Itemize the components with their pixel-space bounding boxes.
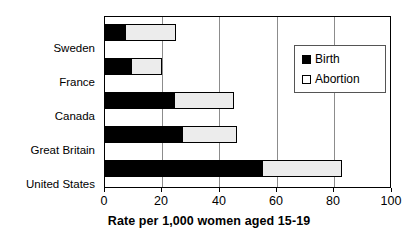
x-tick-mark-100	[391, 188, 392, 192]
bar-segment-birth-france	[105, 58, 131, 75]
bar-segment-abortion-sweden	[125, 24, 176, 41]
y-axis-category-labels: Sweden France Canada Great Britain Unite…	[0, 16, 100, 188]
bar-segment-birth-great-britain	[105, 126, 182, 143]
legend-item-birth: Birth	[302, 49, 385, 69]
legend-item-abortion: Abortion	[302, 69, 385, 89]
x-tick-mark-80	[333, 188, 334, 192]
x-tick-label-0: 0	[84, 194, 124, 208]
bar-segment-birth-united-states	[105, 160, 262, 177]
bar-segment-abortion-france	[131, 58, 162, 75]
y-axis-label-great-britain: Great Britain	[0, 144, 95, 156]
x-tick-mark-20	[161, 188, 162, 192]
x-tick-label-20: 20	[141, 194, 181, 208]
x-tick-label-40: 40	[199, 194, 239, 208]
bar-segment-birth-sweden	[105, 24, 125, 41]
legend-label-abortion: Abortion	[315, 72, 360, 86]
bar-segment-birth-canada	[105, 92, 174, 109]
legend-label-birth: Birth	[315, 52, 340, 66]
bar-chart: Sweden France Canada Great Britain Unite…	[0, 0, 418, 249]
bar-segment-abortion-great-britain	[182, 126, 236, 143]
x-tick-label-80: 80	[313, 194, 353, 208]
plot-area: Birth Abortion	[104, 16, 391, 188]
y-axis-label-canada: Canada	[0, 110, 95, 122]
chart-legend: Birth Abortion	[294, 45, 386, 93]
bar-segment-abortion-united-states	[262, 160, 342, 177]
x-tick-mark-40	[219, 188, 220, 192]
filled-square-icon	[302, 55, 311, 64]
x-tick-label-60: 60	[256, 194, 296, 208]
x-tick-mark-0	[104, 188, 105, 192]
y-axis-label-sweden: Sweden	[0, 42, 95, 54]
x-axis-title: Rate per 1,000 women aged 15-19	[0, 214, 418, 228]
x-tick-mark-60	[276, 188, 277, 192]
bar-segment-abortion-canada	[174, 92, 234, 109]
x-tick-label-100: 100	[371, 194, 411, 208]
hollow-square-icon	[302, 75, 311, 84]
y-axis-label-france: France	[0, 76, 95, 88]
y-axis-label-united-states: United States	[0, 178, 95, 190]
